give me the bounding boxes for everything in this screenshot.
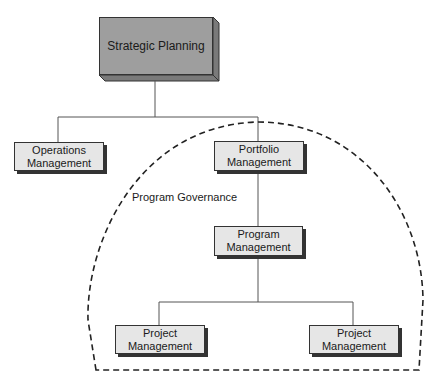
node-label-line1: Project (337, 327, 371, 340)
node-label-line2: Management (322, 340, 386, 353)
project-management-node-left: Project Management (115, 325, 205, 354)
strategic-planning-node: Strategic Planning (99, 17, 213, 75)
node-label-line2: Management (227, 156, 291, 169)
node-label-line2: Management (27, 157, 91, 170)
strategic-planning-label: Strategic Planning (107, 39, 204, 53)
program-management-node: Program Management (214, 226, 303, 256)
project-management-node-right: Project Management (309, 325, 399, 354)
node-label-line2: Management (128, 340, 192, 353)
program-governance-label: Program Governance (132, 191, 237, 203)
portfolio-management-node: Portfolio Management (214, 141, 304, 171)
node-label-line1: Operations (32, 144, 86, 157)
node-label-line1: Project (143, 327, 177, 340)
node-label-line1: Portfolio (239, 143, 279, 156)
node-label-line2: Management (226, 241, 290, 254)
operations-management-node: Operations Management (14, 142, 104, 171)
node-label-line1: Program (237, 228, 279, 241)
